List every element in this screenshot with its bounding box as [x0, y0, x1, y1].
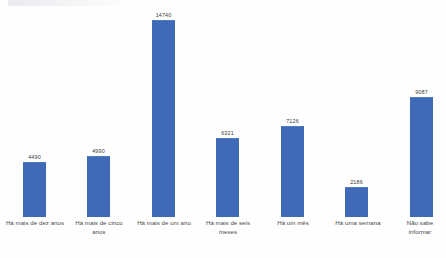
- bar-value-label: 7126: [286, 118, 299, 124]
- category-label: Há mais de dez anos: [5, 219, 65, 228]
- bar-value-label: 14740: [156, 12, 172, 18]
- bar-value-label: 6321: [221, 130, 234, 136]
- category-label: Há mais de cinco anos: [68, 219, 130, 236]
- bar-group: 4990: [87, 148, 110, 218]
- bar-group: 9087: [410, 89, 433, 218]
- bar[interactable]: [216, 138, 239, 217]
- category-label: Há mais de um ano: [135, 219, 193, 228]
- category-label: Há mais de seis meses: [198, 219, 258, 236]
- bar-value-label: 4990: [92, 148, 105, 154]
- bar[interactable]: [281, 126, 304, 217]
- bar-value-label: 9087: [415, 89, 428, 95]
- category-axis: Há mais de dez anos Há mais de cinco ano…: [0, 219, 446, 258]
- bar-group: 14740: [152, 12, 175, 218]
- bar[interactable]: [87, 156, 110, 217]
- category-label: Não sabe informar: [396, 219, 444, 236]
- category-label: Há uma semana: [326, 219, 390, 228]
- bar-group: 6321: [216, 130, 239, 218]
- plot-area: 4490 4990 14740 6321 7126 2186 9087: [0, 0, 446, 217]
- bar[interactable]: [23, 162, 46, 217]
- bar-value-label: 4490: [28, 154, 41, 160]
- category-label: Há um mês: [266, 219, 320, 228]
- bar[interactable]: [345, 187, 368, 217]
- bar-chart: 4490 4990 14740 6321 7126 2186 9087: [0, 0, 446, 258]
- bar-group: 4490: [23, 154, 46, 218]
- bar[interactable]: [410, 97, 433, 217]
- bar-group: 7126: [281, 118, 304, 218]
- bar[interactable]: [152, 20, 175, 217]
- bar-group: 2186: [345, 179, 368, 218]
- bar-value-label: 2186: [350, 179, 363, 185]
